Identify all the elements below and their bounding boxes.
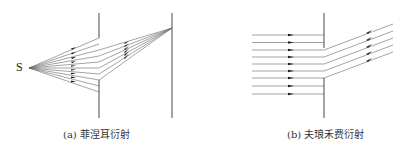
source-label: S [16, 60, 23, 75]
panel-b-fraunhofer [252, 13, 393, 118]
blocked-rays-bottom [29, 68, 99, 92]
arrowheads-incoming-b [288, 34, 294, 95]
passing-rays [29, 28, 172, 80]
panel-a-fresnel [29, 13, 172, 118]
caption-b: (b) 夫琅禾费衍射 [287, 126, 364, 141]
parallel-rays [252, 24, 393, 94]
arrowheads-incoming-a [71, 47, 76, 83]
caption-a: (a) 菲涅耳衍射 [63, 126, 130, 141]
